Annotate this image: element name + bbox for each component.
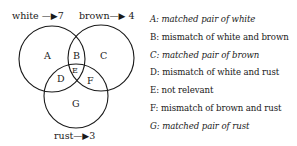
legend-item-f: F: mismatch of brown and rust [150, 103, 297, 121]
region-a: A [44, 51, 51, 61]
region-g: G [72, 99, 80, 109]
legend-item-e: E: not relevant [150, 85, 297, 103]
arrow-right-icon: —▶ [42, 11, 58, 21]
legend-item-a: A: matched pair of white [150, 14, 297, 32]
arrow-right-icon: —▶ [110, 11, 126, 21]
legend-item-g: G: matched pair of rust [150, 121, 297, 139]
arrow-right-icon: —▶ [73, 131, 89, 141]
region-e: E [72, 67, 78, 75]
legend: A: matched pair of white B: mismatch of … [150, 14, 297, 139]
white-label: white —▶7 [12, 11, 64, 21]
legend-item-c: C: matched pair of brown [150, 50, 297, 68]
region-f: F [87, 76, 94, 86]
brown-label: brown—▶ 4 [79, 11, 135, 21]
legend-item-d: D: mismatch of white and rust [150, 67, 297, 85]
legend-item-b: B: mismatch of white and brown [150, 32, 297, 50]
region-d: D [57, 74, 65, 84]
rust-label: rust—▶3 [54, 131, 95, 141]
region-b: B [73, 51, 80, 61]
region-c: C [100, 51, 107, 61]
venn-diagram: white —▶7 brown—▶ 4 rust—▶3 A B C D E F … [0, 0, 150, 146]
